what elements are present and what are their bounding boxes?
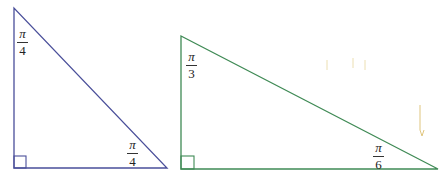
angle-label-right-top: π 3 bbox=[186, 50, 197, 80]
triangle-pi3-pi6 bbox=[181, 36, 438, 169]
angle-label-left-top: π 4 bbox=[17, 27, 28, 57]
right-angle-marker-right bbox=[181, 156, 194, 169]
triangle-pi4 bbox=[14, 8, 167, 168]
faint-marks bbox=[327, 58, 424, 136]
angle-label-left-bottom: π 4 bbox=[127, 138, 138, 168]
right-angle-marker-left bbox=[14, 156, 26, 168]
angle-label-right-bottom: π 6 bbox=[373, 141, 384, 171]
